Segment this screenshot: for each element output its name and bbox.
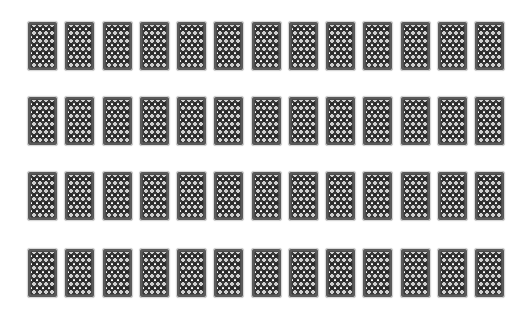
face-down-card[interactable] xyxy=(400,21,431,71)
card-back-pattern xyxy=(291,24,316,68)
face-down-card[interactable] xyxy=(139,171,170,221)
face-down-card[interactable] xyxy=(325,248,356,298)
card-back-pattern xyxy=(179,99,204,143)
card-back-pattern xyxy=(365,251,390,295)
card-back-pattern xyxy=(142,251,167,295)
card-back-pattern xyxy=(477,174,502,218)
face-down-card[interactable] xyxy=(251,96,282,146)
card-back-pattern xyxy=(105,24,130,68)
card-back-pattern xyxy=(105,99,130,143)
face-down-card[interactable] xyxy=(64,248,95,298)
card-back-pattern xyxy=(254,99,279,143)
card-back-pattern xyxy=(179,24,204,68)
card-back-pattern xyxy=(30,174,55,218)
face-down-card[interactable] xyxy=(27,248,58,298)
card-back-pattern xyxy=(477,251,502,295)
face-down-card[interactable] xyxy=(288,248,319,298)
face-down-card[interactable] xyxy=(325,171,356,221)
card-back-pattern xyxy=(440,24,465,68)
face-down-card[interactable] xyxy=(64,21,95,71)
card-back-pattern xyxy=(477,99,502,143)
face-down-card[interactable] xyxy=(251,171,282,221)
card-back-pattern xyxy=(365,99,390,143)
face-down-card[interactable] xyxy=(437,248,468,298)
card-back-pattern xyxy=(67,99,92,143)
card-back-pattern xyxy=(216,24,241,68)
card-back-pattern xyxy=(403,24,428,68)
card-back-pattern xyxy=(403,251,428,295)
face-down-card[interactable] xyxy=(437,21,468,71)
face-down-card[interactable] xyxy=(400,96,431,146)
face-down-card[interactable] xyxy=(362,21,393,71)
face-down-card[interactable] xyxy=(437,171,468,221)
card-back-pattern xyxy=(30,251,55,295)
face-down-card[interactable] xyxy=(102,248,133,298)
face-down-card[interactable] xyxy=(288,96,319,146)
card-back-pattern xyxy=(105,251,130,295)
face-down-card[interactable] xyxy=(362,96,393,146)
card-back-pattern xyxy=(403,99,428,143)
card-back-pattern xyxy=(328,99,353,143)
face-down-card[interactable] xyxy=(27,96,58,146)
face-down-card[interactable] xyxy=(176,248,207,298)
face-down-card[interactable] xyxy=(27,21,58,71)
face-down-card[interactable] xyxy=(176,21,207,71)
face-down-card[interactable] xyxy=(325,96,356,146)
card-back-pattern xyxy=(254,24,279,68)
face-down-card[interactable] xyxy=(64,171,95,221)
face-down-card[interactable] xyxy=(288,171,319,221)
face-down-card[interactable] xyxy=(251,248,282,298)
card-back-pattern xyxy=(216,99,241,143)
face-down-card[interactable] xyxy=(325,21,356,71)
card-back-pattern xyxy=(403,174,428,218)
card-back-pattern xyxy=(440,174,465,218)
card-back-pattern xyxy=(142,24,167,68)
card-back-pattern xyxy=(67,24,92,68)
face-down-card[interactable] xyxy=(102,96,133,146)
face-down-card[interactable] xyxy=(474,96,505,146)
face-down-card[interactable] xyxy=(102,171,133,221)
face-down-card[interactable] xyxy=(27,171,58,221)
card-back-pattern xyxy=(291,99,316,143)
card-back-pattern xyxy=(67,251,92,295)
card-back-pattern xyxy=(291,251,316,295)
face-down-card[interactable] xyxy=(400,171,431,221)
card-back-pattern xyxy=(216,174,241,218)
card-back-pattern xyxy=(105,174,130,218)
face-down-card[interactable] xyxy=(102,21,133,71)
face-down-card[interactable] xyxy=(400,248,431,298)
face-down-card[interactable] xyxy=(474,248,505,298)
card-back-pattern xyxy=(179,174,204,218)
face-down-card[interactable] xyxy=(176,96,207,146)
face-down-card[interactable] xyxy=(213,171,244,221)
card-back-pattern xyxy=(142,99,167,143)
card-back-pattern xyxy=(67,174,92,218)
card-back-pattern xyxy=(30,24,55,68)
card-back-pattern xyxy=(440,251,465,295)
card-board xyxy=(0,0,528,312)
card-back-pattern xyxy=(30,99,55,143)
card-back-pattern xyxy=(142,174,167,218)
face-down-card[interactable] xyxy=(213,21,244,71)
card-back-pattern xyxy=(328,24,353,68)
face-down-card[interactable] xyxy=(474,21,505,71)
face-down-card[interactable] xyxy=(213,96,244,146)
face-down-card[interactable] xyxy=(213,248,244,298)
face-down-card[interactable] xyxy=(176,171,207,221)
face-down-card[interactable] xyxy=(288,21,319,71)
face-down-card[interactable] xyxy=(437,96,468,146)
face-down-card[interactable] xyxy=(251,21,282,71)
face-down-card[interactable] xyxy=(474,171,505,221)
card-back-pattern xyxy=(179,251,204,295)
card-back-pattern xyxy=(365,24,390,68)
card-back-pattern xyxy=(291,174,316,218)
face-down-card[interactable] xyxy=(139,248,170,298)
face-down-card[interactable] xyxy=(139,21,170,71)
face-down-card[interactable] xyxy=(362,248,393,298)
face-down-card[interactable] xyxy=(139,96,170,146)
card-back-pattern xyxy=(328,174,353,218)
face-down-card[interactable] xyxy=(362,171,393,221)
card-back-pattern xyxy=(328,251,353,295)
card-back-pattern xyxy=(477,24,502,68)
face-down-card[interactable] xyxy=(64,96,95,146)
